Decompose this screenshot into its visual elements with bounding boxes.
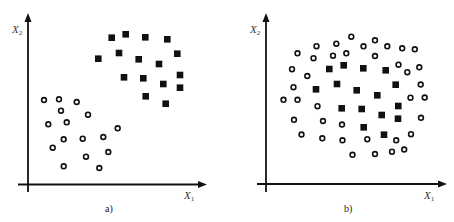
square-marker-icon [378, 112, 385, 119]
circle-marker-icon [320, 136, 325, 141]
circle-marker-icon [314, 44, 319, 49]
y-axis-label: X2 [249, 23, 261, 37]
circle-marker-icon [115, 126, 120, 131]
circle-marker-icon [422, 95, 427, 100]
x-axis-arrow-icon [198, 181, 207, 188]
circle-marker-icon [84, 154, 89, 159]
x-axis-label: X1 [183, 189, 195, 203]
circle-marker-icon [350, 152, 355, 157]
circle-marker-icon [385, 44, 390, 49]
figure: X2 X1 a) X2 X1 b) [0, 0, 454, 222]
scatter-points [42, 31, 184, 170]
square-marker-icon [334, 81, 341, 88]
square-marker-icon [160, 81, 167, 88]
circle-marker-icon [373, 54, 378, 59]
circle-marker-icon [412, 47, 417, 52]
circle-marker-icon [349, 34, 354, 39]
circle-marker-icon [373, 152, 378, 157]
circle-marker-icon [64, 120, 69, 125]
square-marker-icon [313, 86, 320, 93]
circle-marker-icon [295, 97, 300, 102]
square-marker-icon [360, 65, 367, 72]
square-marker-icon [162, 100, 169, 107]
circle-marker-icon [419, 115, 424, 120]
circle-marker-icon [331, 53, 336, 58]
square-marker-icon [395, 103, 402, 110]
circle-marker-icon [42, 98, 47, 103]
circle-marker-icon [417, 65, 422, 70]
square-marker-icon [122, 31, 129, 38]
square-marker-icon [108, 34, 115, 41]
circle-marker-icon [281, 97, 286, 102]
square-marker-icon [395, 115, 402, 122]
panel-b: X2 X1 b) [249, 13, 447, 215]
scatter-points [281, 34, 427, 157]
circle-marker-icon [311, 56, 316, 61]
circle-marker-icon [402, 147, 407, 152]
square-marker-icon [95, 55, 102, 62]
square-marker-icon [156, 61, 163, 68]
circle-marker-icon [80, 136, 85, 141]
circle-marker-icon [394, 138, 399, 143]
square-marker-icon [164, 36, 171, 43]
circle-marker-icon [373, 38, 378, 43]
circle-marker-icon [334, 41, 339, 46]
square-marker-icon [121, 74, 128, 81]
circle-marker-icon [400, 46, 405, 51]
panel-caption: b) [344, 203, 352, 215]
square-marker-icon [142, 93, 149, 100]
square-marker-icon [140, 75, 147, 82]
circle-marker-icon [59, 108, 64, 113]
circle-marker-icon [86, 112, 91, 117]
square-marker-icon [392, 81, 399, 88]
circle-marker-icon [57, 97, 62, 102]
panel-caption: a) [105, 203, 113, 215]
square-marker-icon [326, 66, 333, 73]
circle-marker-icon [365, 137, 370, 142]
square-marker-icon [358, 106, 365, 113]
circle-marker-icon [106, 150, 111, 155]
circle-marker-icon [361, 44, 366, 49]
circle-marker-icon [340, 122, 345, 127]
circle-marker-icon [390, 149, 395, 154]
square-marker-icon [174, 50, 181, 57]
y-axis-label: X2 [11, 23, 23, 37]
circle-marker-icon [74, 100, 79, 105]
circle-marker-icon [292, 117, 297, 122]
panel-a: X2 X1 a) [11, 13, 207, 215]
circle-marker-icon [409, 132, 414, 137]
square-marker-icon [374, 92, 381, 99]
y-axis-arrow-icon [263, 13, 270, 22]
square-marker-icon [177, 72, 184, 79]
circle-marker-icon [291, 85, 296, 90]
square-marker-icon [381, 131, 388, 138]
circle-marker-icon [97, 166, 102, 171]
square-marker-icon [340, 62, 347, 69]
circle-marker-icon [61, 164, 66, 169]
circle-marker-icon [295, 51, 300, 56]
circle-marker-icon [101, 135, 106, 140]
circle-marker-icon [290, 67, 295, 72]
x-axis-arrow-icon [438, 181, 447, 188]
square-marker-icon [360, 124, 367, 131]
circle-marker-icon [344, 51, 349, 56]
circle-marker-icon [408, 95, 413, 100]
circle-marker-icon [315, 104, 320, 109]
square-marker-icon [177, 84, 184, 91]
x-axis-label: X1 [423, 189, 435, 203]
square-marker-icon [338, 105, 345, 112]
circle-marker-icon [396, 62, 401, 67]
circle-marker-icon [405, 70, 410, 75]
circle-marker-icon [321, 119, 326, 124]
circle-marker-icon [46, 122, 51, 127]
square-marker-icon [353, 87, 360, 94]
square-marker-icon [135, 56, 142, 63]
circle-marker-icon [299, 132, 304, 137]
square-marker-icon [382, 67, 389, 74]
y-axis-arrow-icon [25, 13, 32, 22]
circle-marker-icon [305, 74, 310, 79]
square-marker-icon [142, 34, 149, 41]
circle-marker-icon [418, 82, 423, 87]
circle-marker-icon [50, 145, 55, 150]
circle-marker-icon [61, 137, 66, 142]
